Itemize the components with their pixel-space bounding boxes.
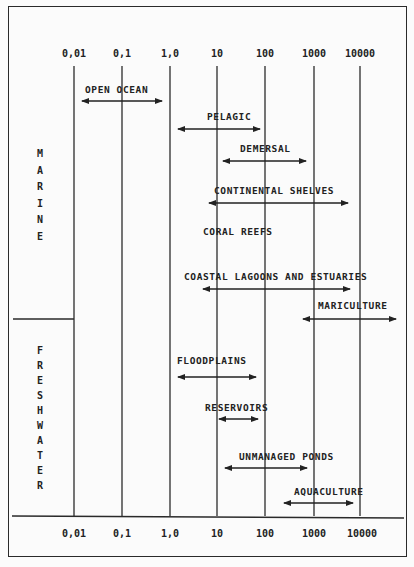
diagram-lines bbox=[0, 0, 414, 567]
label-demersal: DEMERSAL bbox=[240, 143, 291, 154]
label-aquaculture: AQUACULTURE bbox=[294, 486, 364, 497]
group-label-freshwater: FRESHWATER bbox=[33, 343, 47, 493]
group-label-marine: MARINE bbox=[33, 146, 47, 245]
bottom-tick-10000: 10000 bbox=[347, 528, 377, 539]
label-open-ocean: OPEN OCEAN bbox=[85, 84, 148, 95]
label-coastal-lagoons: COASTAL LAGOONS AND ESTUARIES bbox=[184, 271, 367, 282]
bottom-tick-1: 1,0 bbox=[161, 528, 179, 539]
bottom-tick-100: 100 bbox=[256, 528, 274, 539]
bottom-tick-10: 10 bbox=[211, 528, 223, 539]
top-tick-0.1: 0,1 bbox=[113, 48, 131, 59]
bottom-tick-0.1: 0,1 bbox=[113, 528, 131, 539]
top-tick-1000: 1000 bbox=[302, 48, 326, 59]
label-continental-shelves: CONTINENTAL SHELVES bbox=[214, 185, 334, 196]
top-tick-100: 100 bbox=[256, 48, 274, 59]
label-pelagic: PELAGIC bbox=[207, 111, 251, 122]
label-mariculture: MARICULTURE bbox=[318, 300, 388, 311]
top-tick-1: 1,0 bbox=[161, 48, 179, 59]
top-tick-0.01: 0,01 bbox=[62, 48, 86, 59]
top-tick-10: 10 bbox=[211, 48, 223, 59]
label-coral-reefs: CORAL REEFS bbox=[203, 226, 273, 237]
label-unmanaged-ponds: UNMANAGED PONDS bbox=[239, 451, 334, 462]
bottom-tick-1000: 1000 bbox=[302, 528, 326, 539]
label-reservoirs: RESERVOIRS bbox=[205, 402, 268, 413]
bottom-tick-0.01: 0,01 bbox=[62, 528, 86, 539]
top-tick-10000: 10000 bbox=[345, 48, 375, 59]
label-floodplains: FLOODPLAINS bbox=[177, 355, 247, 366]
